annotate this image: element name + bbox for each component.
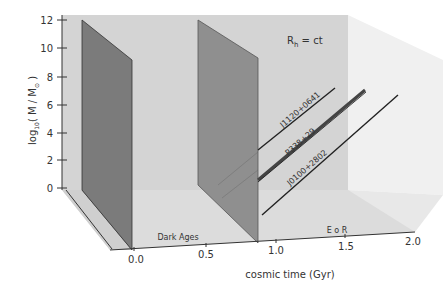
y-axis-title: log10( M / M⊙ ) — [27, 76, 40, 145]
y-tick-12: 12 — [40, 15, 53, 26]
x-tick-05: 0.5 — [198, 249, 214, 260]
y-tick-6: 6 — [47, 100, 53, 111]
y-tick-0: 0 — [47, 183, 53, 194]
y-tick-4: 4 — [47, 128, 53, 139]
x-tick-20: 2.0 — [405, 236, 421, 247]
y-tick-10: 10 — [40, 43, 53, 54]
eor-label: E o R — [327, 226, 348, 235]
chart-canvas: J1120+0641 P338+29 J0100+2802 Rh = ct 12… — [0, 0, 443, 298]
y-tick-2: 2 — [47, 155, 53, 166]
dark-ages-label: Dark Ages — [157, 233, 198, 242]
x-axis-title: cosmic time (Gyr) — [245, 269, 334, 280]
x-tick-0: 0.0 — [128, 254, 144, 265]
x-tick-15: 1.5 — [338, 241, 354, 252]
side-wall — [348, 15, 443, 195]
x-tick-10: 1.0 — [268, 245, 284, 256]
y-tick-8: 8 — [47, 72, 53, 83]
